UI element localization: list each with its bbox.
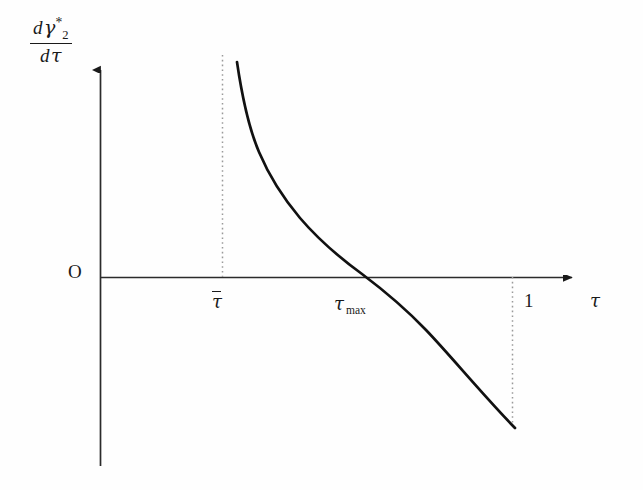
denominator-d: d: [40, 45, 50, 66]
numerator-subscript-2: 2: [62, 28, 68, 42]
tau-max-base: τ: [334, 293, 344, 314]
tau-bar-glyph: τ: [212, 293, 222, 311]
x-axis-label: τ: [590, 292, 600, 310]
fraction-numerator: d γ*2: [30, 16, 72, 44]
data-curve: [237, 62, 515, 428]
numerator-gamma: γ: [44, 16, 55, 38]
tau-max-subscript: max: [346, 304, 366, 316]
denominator-tau: τ: [51, 44, 62, 66]
derivative-fraction: d γ*2 d τ: [30, 16, 72, 65]
x-tick-label-tau-bar: τ: [212, 293, 222, 311]
origin-label: O: [68, 262, 82, 281]
x-tick-label-tau-max: τmax: [334, 295, 364, 313]
figure-container: d γ*2 d τ O τ τmax 1 τ: [0, 0, 643, 490]
x-tick-label-one: 1: [524, 291, 534, 310]
y-axis-label: d γ*2 d τ: [30, 16, 72, 65]
numerator-d: d: [33, 17, 43, 38]
plot-area: [0, 0, 643, 490]
fraction-denominator: d τ: [30, 44, 72, 65]
